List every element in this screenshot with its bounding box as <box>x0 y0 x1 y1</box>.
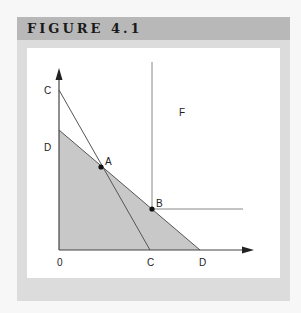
label-d-x: D <box>199 257 206 268</box>
label-c-y: C <box>44 85 51 96</box>
label-c-x: C <box>147 257 154 268</box>
point-a <box>98 164 103 169</box>
label-d-y: D <box>44 142 51 153</box>
label-b: B <box>156 198 163 209</box>
label-f: F <box>179 107 185 118</box>
point-b <box>149 206 154 211</box>
x-axis-arrow-icon <box>242 247 254 254</box>
diagram-svg: C D A B F 0 C D <box>0 0 301 313</box>
label-origin: 0 <box>57 257 63 268</box>
label-a: A <box>105 156 112 167</box>
y-axis-arrow-icon <box>56 68 63 80</box>
